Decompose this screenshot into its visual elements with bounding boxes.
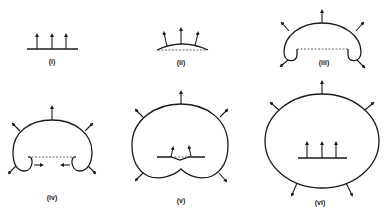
arrow-icon [164,33,167,46]
arrow-icon [136,110,143,117]
arrow-icon [171,148,173,157]
arrow-icon [281,60,288,66]
panel-label: (iii) [319,59,330,67]
arrow-icon [136,173,143,180]
arrow-icon [365,103,373,110]
bubble-outline [284,23,361,61]
inner-surface [157,157,205,160]
panel-vi: (vi) [265,82,379,207]
panel-iii: (iii) [281,11,364,67]
closed-loop [265,94,379,188]
arrow-icon [219,173,226,181]
panel-label: (i) [49,58,56,66]
panel-label: (vi) [315,199,326,207]
arrow-icon [271,103,279,110]
loop-expansion-diagram: (i) (ii) (iii) (iv) [0,0,392,221]
panel-label: (ii) [177,59,186,67]
panel-v: (v) [132,92,228,205]
arrow-icon [85,124,92,131]
bubble-outline [13,120,92,171]
arrow-icon [220,110,227,117]
arrow-icon [9,166,16,173]
panel-iv: (iv) [9,107,95,202]
curved-surface [157,44,208,50]
arrow-icon [88,166,95,173]
panel-i: (i) [27,35,78,66]
panel-label: (iv) [47,194,58,202]
panel-ii: (ii) [157,29,208,67]
arrow-icon [13,124,20,131]
panel-label: (v) [177,197,186,205]
arrow-icon [282,23,289,31]
arrow-icon [346,183,352,195]
arrow-icon [356,23,363,31]
arrow-icon [357,60,364,67]
arrow-icon [292,183,297,195]
heart-outline [132,104,228,178]
arrow-icon [195,33,198,46]
arrow-icon [189,147,191,156]
